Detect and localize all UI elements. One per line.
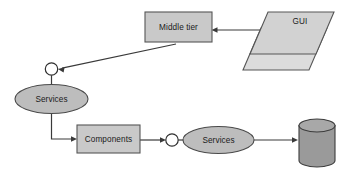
node-middle-tier[interactable]: Middle tier: [145, 12, 212, 42]
socket-upper-interface-icon[interactable]: [45, 63, 57, 75]
connector-services-left-to-components: [52, 114, 78, 142]
middle-tier-label: Middle tier: [159, 23, 198, 32]
services-right-label: Services: [202, 136, 234, 145]
connector-middle-tier-to-socket-upper: [58, 44, 176, 73]
gui-label: GUI: [293, 17, 308, 26]
arrowhead-right-icon: [71, 136, 77, 142]
socket-lower-interface-icon[interactable]: [166, 134, 178, 146]
arrowhead-left-icon: [58, 67, 65, 72]
database-cylinder-top-icon: [299, 119, 335, 132]
diagram-canvas: GUI Middle tier Services Components Serv…: [0, 0, 349, 176]
arrowhead-right-icon: [160, 137, 166, 143]
connector-gui-to-middle-tier: [212, 27, 264, 33]
node-services-left[interactable]: Services: [15, 85, 88, 114]
node-gui[interactable]: GUI: [243, 12, 334, 70]
components-label: Components: [85, 135, 132, 144]
node-database[interactable]: [299, 119, 335, 167]
arrowhead-right-icon: [292, 137, 298, 143]
connector-services-right-to-database: [254, 137, 298, 143]
connector-line: [62, 44, 176, 68]
node-services-right[interactable]: Services: [183, 127, 254, 154]
services-left-label: Services: [35, 95, 67, 104]
architecture-diagram: GUI Middle tier Services Components Serv…: [0, 0, 349, 176]
node-components[interactable]: Components: [77, 125, 140, 153]
connector-components-to-socket-lower: [140, 137, 166, 143]
connector-line: [52, 114, 75, 140]
